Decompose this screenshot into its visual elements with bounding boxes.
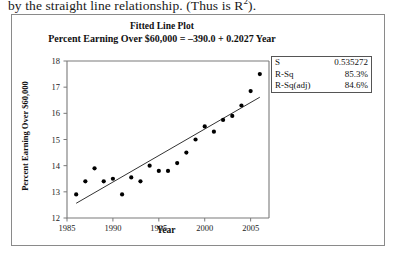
document-text-fragment: by the straight line relationship. (Thus…	[8, 0, 243, 13]
y-tick-label: 16	[42, 109, 60, 117]
y-tick-label: 15	[42, 136, 60, 144]
document-body-text: by the straight line relationship. (Thus…	[8, 0, 388, 14]
y-tick-label: 12	[42, 214, 60, 222]
data-point-group	[74, 72, 262, 197]
data-point	[258, 72, 262, 76]
data-point	[102, 179, 106, 183]
data-point	[203, 124, 207, 128]
x-tick-label: 2005	[234, 224, 268, 232]
data-point	[138, 179, 142, 183]
data-point	[239, 103, 243, 107]
y-tick-label: 18	[42, 57, 60, 65]
data-point	[230, 114, 234, 118]
data-point	[193, 137, 197, 141]
data-point	[74, 192, 78, 196]
data-point	[221, 118, 225, 122]
axis-lines	[67, 61, 269, 218]
plot-area: Percent Earning Over $60,000 Year 121314…	[12, 15, 386, 247]
figure-container: Fitted Line Plot Percent Earning Over $6…	[11, 14, 385, 246]
data-point	[249, 89, 253, 93]
data-point	[148, 164, 152, 168]
data-point	[157, 169, 161, 173]
y-tick-label: 14	[42, 162, 60, 170]
data-point	[83, 179, 87, 183]
x-tick-label: 1995	[142, 224, 176, 232]
data-point	[175, 161, 179, 165]
data-point	[212, 130, 216, 134]
x-tick-label: 2000	[188, 224, 222, 232]
data-point	[129, 175, 133, 179]
data-point	[120, 192, 124, 196]
scatter-plot-svg	[12, 15, 386, 247]
x-tick-label: 1985	[50, 224, 84, 232]
y-tick-label: 17	[42, 83, 60, 91]
x-tick-label: 1990	[96, 224, 130, 232]
regression-fit-line	[76, 97, 260, 203]
y-tick-label: 13	[42, 188, 60, 196]
document-text-tail: ).	[248, 0, 256, 13]
data-point	[166, 169, 170, 173]
data-point	[184, 150, 188, 154]
data-point	[92, 166, 96, 170]
data-point	[111, 177, 115, 181]
